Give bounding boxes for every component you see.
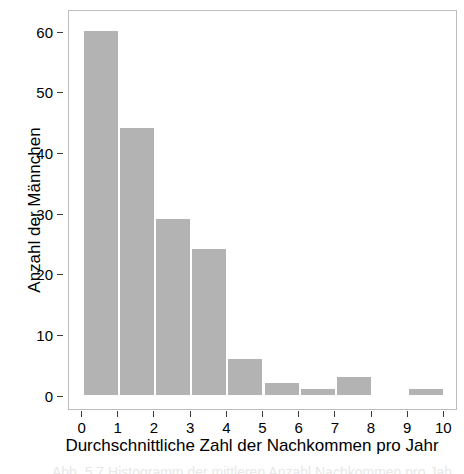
x-axis-tick-mark — [262, 411, 263, 417]
x-axis-tick-label: 10 — [435, 420, 452, 435]
y-axis-ticks: 0102030405060 — [30, 10, 63, 410]
y-axis-tick-label: 60 — [36, 25, 57, 40]
y-axis-tick-mark — [57, 153, 63, 154]
y-axis-tick-mark — [57, 335, 63, 336]
y-axis-tick-label: 50 — [36, 85, 57, 100]
chart-figure: Anzahl der Männchen 0102030405060 012345… — [0, 0, 464, 474]
y-axis-tick-label: 10 — [36, 328, 57, 343]
x-axis-tick-mark — [371, 411, 372, 417]
plot-area — [69, 11, 456, 409]
plot-panel — [68, 10, 457, 410]
bar — [409, 389, 443, 395]
bar — [301, 389, 335, 395]
x-axis-tick-mark — [443, 411, 444, 417]
y-axis-tick-mark — [57, 274, 63, 275]
x-axis-tick-mark — [153, 411, 154, 417]
bar — [156, 219, 190, 395]
bar — [228, 359, 262, 395]
bar — [337, 377, 371, 395]
x-axis-tick-label: 2 — [150, 420, 158, 435]
x-axis-title-text: Durchschnittliche Zahl der Nachkommen pr… — [65, 436, 438, 455]
x-axis-tick-mark — [226, 411, 227, 417]
y-axis-tick-mark — [57, 92, 63, 93]
bar — [84, 31, 118, 395]
y-axis-tick-mark — [57, 396, 63, 397]
x-axis-tick-mark — [298, 411, 299, 417]
x-axis-tick-label: 5 — [258, 420, 266, 435]
x-axis-tick-mark — [190, 411, 191, 417]
bar — [265, 383, 299, 395]
x-axis-tick-mark — [407, 411, 408, 417]
figure-caption-sliver: Abb. 5.7 Histogramm der mittleren Anzahl… — [52, 465, 452, 474]
y-axis-tick-label: 30 — [36, 207, 57, 222]
y-axis-tick-mark — [57, 214, 63, 215]
x-axis-tick-label: 3 — [186, 420, 194, 435]
x-axis-title: Durchschnittliche Zahl der Nachkommen pr… — [40, 436, 464, 456]
y-axis-tick-label: 40 — [36, 146, 57, 161]
x-axis-tick-label: 0 — [77, 420, 85, 435]
bar — [120, 128, 154, 395]
x-axis-tick-mark — [81, 411, 82, 417]
x-axis-tick-label: 9 — [403, 420, 411, 435]
x-axis-tick-label: 4 — [222, 420, 230, 435]
x-axis-tick-label: 1 — [114, 420, 122, 435]
x-axis-tick-mark — [117, 411, 118, 417]
x-axis-ticks: 012345678910 — [68, 411, 457, 435]
y-axis-tick-label: 0 — [45, 389, 57, 404]
bar — [192, 249, 226, 395]
x-axis-tick-label: 7 — [331, 420, 339, 435]
x-axis-tick-label: 8 — [367, 420, 375, 435]
y-axis-tick-label: 20 — [36, 267, 57, 282]
y-axis-tick-mark — [57, 32, 63, 33]
x-axis-tick-label: 6 — [295, 420, 303, 435]
x-axis-tick-mark — [334, 411, 335, 417]
